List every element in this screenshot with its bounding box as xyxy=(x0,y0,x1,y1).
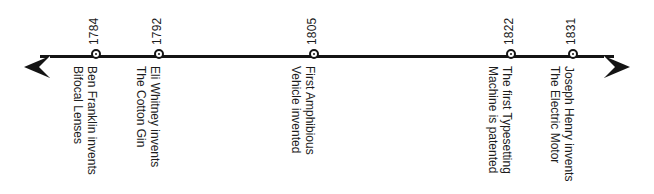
event-label: The first TypesettingMachine is patented xyxy=(486,66,513,174)
event-year: 1784 xyxy=(88,18,100,46)
event-label-line-1: First Amphibious xyxy=(303,66,317,155)
event-label: First AmphibiousVehicle invented xyxy=(289,66,316,155)
circle-node-icon[interactable] xyxy=(506,49,516,59)
arrow-right-notch xyxy=(604,56,615,78)
event-year: 1792 xyxy=(151,18,163,46)
event-label-line-2: Vehicle invented xyxy=(289,66,303,155)
event-label-line-1: Ben Franklin invents xyxy=(85,66,99,175)
event-label-line-1: Joseph Henry invents xyxy=(562,66,576,181)
timeline-axis-line xyxy=(40,55,614,58)
event-label-line-2: Bifocal Lenses xyxy=(71,66,85,175)
event-label-line-1: Eli Whitney invents xyxy=(148,66,162,167)
timeline-canvas: 1784Ben Franklin inventsBifocal Lenses17… xyxy=(0,0,654,194)
event-label-line-2: The Electric Motor xyxy=(548,66,562,181)
circle-node-icon[interactable] xyxy=(154,49,164,59)
circle-node-icon[interactable] xyxy=(568,49,578,59)
circle-node-icon[interactable] xyxy=(309,49,319,59)
event-label: Joseph Henry inventsThe Electric Motor xyxy=(548,66,575,181)
event-year: 1831 xyxy=(565,18,577,46)
event-label-line-2: The Cotton Gin xyxy=(134,66,148,167)
event-label-line-2: Machine is patented xyxy=(486,66,500,174)
event-label: Eli Whitney inventsThe Cotton Gin xyxy=(134,66,161,167)
event-label-line-1: The first Typesetting xyxy=(500,66,514,174)
event-label: Ben Franklin inventsBifocal Lenses xyxy=(71,66,98,175)
event-year: 1822 xyxy=(503,18,515,46)
circle-node-icon[interactable] xyxy=(91,49,101,59)
event-year: 1805 xyxy=(306,18,318,46)
arrow-left-notch xyxy=(39,56,50,78)
